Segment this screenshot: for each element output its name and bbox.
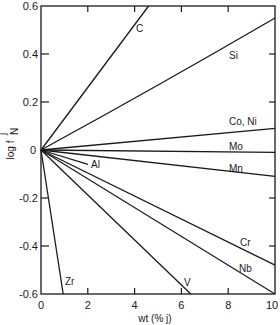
label-Co-Ni: Co, Ni [229, 116, 257, 127]
y-axis-title-subscript: N [9, 128, 20, 135]
x-tick-6: 6 [178, 299, 184, 311]
chart: 0.6 0.4 0.2 0 -0.2 -0.4 -0.6 0 2 4 6 8 1… [0, 0, 280, 325]
x-tick-4: 4 [132, 299, 138, 311]
x-axis-title: wt (% j) [137, 313, 171, 324]
x-tick-8: 8 [225, 299, 231, 311]
y-axis-title-superscript: j [0, 133, 8, 136]
line-Si [41, 18, 275, 150]
line-V [41, 150, 191, 294]
label-Nb: Nb [239, 263, 252, 274]
label-Al: Al [91, 159, 100, 170]
x-tick-0: 0 [38, 299, 44, 311]
x-ticks-bottom [88, 288, 228, 294]
x-tick-2: 2 [85, 299, 91, 311]
y-tick-0.6: 0.6 [23, 0, 38, 12]
line-Zr [41, 150, 63, 294]
label-Mo: Mo [229, 141, 243, 152]
y-ticks-right [269, 54, 275, 246]
y-tick-neg0.4: -0.4 [19, 240, 38, 252]
label-Cr: Cr [240, 237, 251, 248]
label-Zr: Zr [65, 276, 75, 287]
y-tick-0.2: 0.2 [23, 96, 38, 108]
y-tick-neg0.6: -0.6 [19, 288, 38, 300]
x-ticks-top [88, 6, 228, 12]
label-Mn: Mn [229, 163, 243, 174]
label-C: C [136, 23, 143, 34]
label-V: V [184, 277, 191, 288]
y-tick-0: 0 [30, 144, 36, 156]
y-tick-0.4: 0.4 [23, 48, 38, 60]
line-C [41, 6, 149, 150]
y-tick-neg0.2: -0.2 [19, 192, 38, 204]
y-axis-title-main: log f [5, 140, 16, 159]
y-axis-title: log f N j [0, 128, 20, 160]
x-tick-10: 10 [266, 299, 278, 311]
label-Si: Si [229, 50, 238, 61]
